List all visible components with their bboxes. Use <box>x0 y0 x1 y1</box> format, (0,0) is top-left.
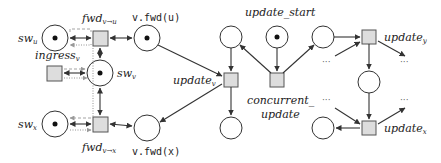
ellipsis-1: ··· <box>322 57 331 67</box>
label-ingress-v: ingressv <box>35 49 80 63</box>
arc-ellipsis-update-y <box>335 42 360 56</box>
label-v-fwd-u: v.fwd(u) <box>132 12 180 23</box>
place-v-fwd-u <box>134 25 160 51</box>
place-pre-update-y <box>312 26 334 48</box>
transition-update-v <box>224 73 238 87</box>
transition-update-x <box>362 121 376 135</box>
arc-update-v-v-fwd-x <box>160 84 222 122</box>
transition-ingress-v <box>47 66 62 81</box>
label-concurrent-update-2: update <box>261 108 300 121</box>
ellipsis-3: ··· <box>322 95 331 105</box>
label-concurrent-update-1: concurrent_ <box>247 94 315 107</box>
transition-concurrent-update <box>270 73 284 87</box>
arc-v-fwd-u-update-v <box>158 45 222 76</box>
transition-fwd-v-x <box>93 117 108 132</box>
arc-concurrent-right <box>283 45 314 73</box>
place-sw-x <box>42 111 68 137</box>
arc-concurrent-pre-update-v <box>240 45 271 73</box>
transition-update-y <box>362 30 376 44</box>
place-v-fwd-x <box>134 115 160 141</box>
place-sw-v <box>87 60 113 86</box>
arc-fwd-v-x-v-fwd-x <box>110 124 132 126</box>
label-sw-v: swv <box>117 67 136 81</box>
label-fwd-v-u: fwdv→u <box>81 12 117 26</box>
label-v-fwd-x: v.fwd(x) <box>132 146 180 157</box>
arc-ellipsis-update-x <box>335 108 360 124</box>
label-update-v: updatev <box>173 74 216 88</box>
dashed-arc-top-u <box>70 29 91 32</box>
petri-net-diagram: swu fwdv→u v.fwd(u) ingressv swv swx fwd… <box>0 0 441 163</box>
label-sw-u: swu <box>18 32 38 46</box>
label-update-y: updatey <box>384 31 428 45</box>
place-sw-u <box>42 25 68 51</box>
place-pre-update-v <box>220 26 242 48</box>
label-fwd-v-x: fwdv→x <box>81 141 116 155</box>
transition-fwd-v-u <box>93 31 108 46</box>
ellipsis-2: ··· <box>400 57 409 67</box>
label-update-start: update_start <box>245 6 316 19</box>
place-mid-right <box>358 71 380 93</box>
ellipsis-4: ··· <box>400 95 409 105</box>
place-update-start <box>266 26 288 48</box>
label-update-x: updatex <box>384 122 427 136</box>
place-post-update-x <box>312 117 334 139</box>
place-post-update-v <box>220 117 242 139</box>
label-sw-x: swx <box>18 118 37 132</box>
dotted-arc-u <box>70 44 91 45</box>
